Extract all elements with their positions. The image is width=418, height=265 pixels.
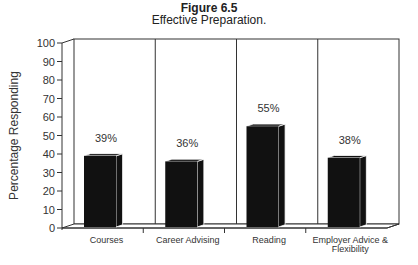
bar bbox=[165, 161, 197, 227]
bar bbox=[247, 126, 279, 227]
y-tick-label: 50 bbox=[43, 130, 55, 142]
value-label: 39% bbox=[95, 132, 117, 144]
y-tick-label: 60 bbox=[43, 111, 55, 123]
bar-side bbox=[360, 156, 367, 228]
y-axis-label: Percentage Responding bbox=[7, 71, 21, 200]
category-label: Flexibility bbox=[332, 244, 370, 254]
category-label: Courses bbox=[90, 235, 124, 245]
bar bbox=[84, 156, 116, 227]
bar-top bbox=[328, 156, 367, 158]
y-tick-label: 30 bbox=[43, 167, 55, 179]
bar-side bbox=[116, 154, 123, 227]
y-tick-label: 100 bbox=[37, 37, 55, 49]
bar-chart: 0102030405060708090100Percentage Respond… bbox=[0, 0, 418, 265]
value-label: 38% bbox=[339, 134, 361, 146]
bar-top bbox=[165, 159, 204, 161]
bar-top bbox=[247, 124, 286, 126]
value-label: 36% bbox=[176, 137, 198, 149]
y-tick-label: 70 bbox=[43, 93, 55, 105]
bar bbox=[328, 158, 360, 227]
bar-side bbox=[197, 159, 204, 227]
y-tick-label: 80 bbox=[43, 74, 55, 86]
side-wall-top bbox=[62, 39, 74, 43]
bar-top bbox=[84, 154, 123, 156]
y-tick-label: 20 bbox=[43, 185, 55, 197]
y-tick-label: 10 bbox=[43, 204, 55, 216]
y-tick-label: 90 bbox=[43, 56, 55, 68]
category-label: Career Advising bbox=[156, 235, 220, 245]
y-tick-label: 0 bbox=[49, 222, 55, 234]
value-label: 55% bbox=[257, 102, 279, 114]
category-label: Reading bbox=[252, 235, 286, 245]
y-tick-label: 40 bbox=[43, 148, 55, 160]
bar-side bbox=[279, 124, 286, 227]
